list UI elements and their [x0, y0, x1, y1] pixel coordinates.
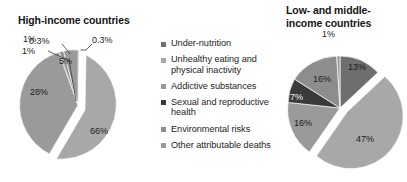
left-pie-svg — [12, 38, 162, 174]
left-pie-chart: 1% 0.3% 5% 28% 66% — [12, 38, 162, 174]
left-label-other-attributable: 5% — [59, 56, 72, 66]
legend-item-other-attributable-deaths[interactable]: Other attributable deaths — [161, 140, 275, 151]
legend-swatch-icon-under-nutrition — [161, 42, 166, 47]
right-pie-chart: 1% 13% 16% 7% 16% 47% — [280, 44, 404, 176]
right-label-unhealthy-eating: 47% — [356, 134, 374, 144]
legend-item-addictive-substances[interactable]: Addictive substances — [161, 81, 275, 92]
legend-label-addictive-substances: Addictive substances — [171, 81, 256, 92]
legend: Under-nutrition Unhealthy eating and phy… — [161, 38, 275, 156]
legend-label-unhealthy-eating: Unhealthy eating and physical inactivity — [171, 54, 275, 75]
right-label-under-nutrition: 13% — [348, 62, 366, 72]
legend-label-under-nutrition: Under-nutrition — [171, 38, 231, 49]
legend-label-other-attributable-deaths: Other attributable deaths — [171, 140, 271, 151]
legend-item-environmental-risks[interactable]: Environmental risks — [161, 124, 275, 135]
legend-swatch-icon-addictive-substances — [161, 84, 166, 89]
legend-item-unhealthy-eating[interactable]: Unhealthy eating and physical inactivity — [161, 54, 275, 75]
left-chart-title: High-income countries — [18, 14, 168, 27]
right-label-addictive-substances: 16% — [294, 118, 312, 128]
figure-canvas: High-income countries 1% 0.3% — [0, 0, 407, 182]
legend-item-sexual-reproductive-health[interactable]: Sexual and reproductive health — [161, 97, 275, 118]
legend-swatch-icon-sexual-reproductive-health — [161, 100, 166, 105]
left-label-unhealthy-eating: 66% — [90, 126, 108, 136]
legend-item-under-nutrition[interactable]: Under-nutrition — [161, 38, 275, 49]
right-chart-title-line1: Low- and middle- — [286, 4, 371, 16]
legend-swatch-icon-unhealthy-eating — [161, 58, 166, 63]
right-pie-svg — [280, 44, 404, 176]
left-label-sexual-reproductive: 0.3% — [92, 35, 113, 45]
legend-swatch-icon-environmental-risks — [161, 127, 166, 132]
legend-label-sexual-reproductive-health: Sexual and reproductive health — [171, 97, 275, 118]
left-label-one-percent: 1% — [22, 46, 35, 56]
legend-swatch-icon-other-attributable-deaths — [161, 143, 166, 148]
right-label-sexual-reproductive: 7% — [290, 92, 303, 102]
right-label-other-attributable: 1% — [322, 29, 335, 39]
left-leader-line-sexual — [81, 44, 93, 50]
right-chart-title: Low- and middle- income countries — [286, 4, 401, 29]
left-label-addictive-substances: 28% — [30, 87, 48, 97]
left-label-under-nutrition: 0.3% — [29, 36, 50, 46]
legend-label-environmental-risks: Environmental risks — [171, 124, 250, 135]
right-label-environmental-risks: 16% — [313, 74, 331, 84]
right-chart-title-line2: income countries — [286, 17, 371, 29]
